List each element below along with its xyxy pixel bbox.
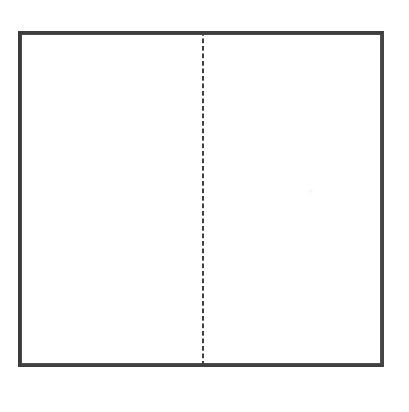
left-panel bbox=[22, 35, 202, 363]
outer-rectangle bbox=[18, 31, 384, 367]
drawing-canvas bbox=[0, 0, 409, 412]
vertical-dashed-fold-line bbox=[202, 31, 204, 367]
scan-speck-artifact bbox=[309, 189, 313, 193]
right-panel bbox=[202, 35, 380, 363]
